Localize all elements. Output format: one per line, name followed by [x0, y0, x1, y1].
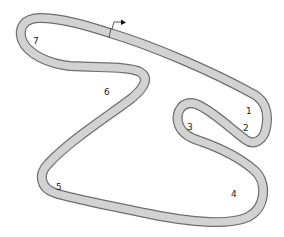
- turn-label-5: 5: [56, 182, 62, 192]
- start-flag-pole: [112, 22, 121, 29]
- turn-label-3: 3: [187, 122, 193, 132]
- turn-label-1: 1: [246, 106, 252, 116]
- turn-label-4: 4: [231, 189, 237, 199]
- turn-label-6: 6: [104, 87, 110, 97]
- start-flag-arrow-icon: [121, 20, 126, 26]
- circuit-diagram: 1 2 3 4 5 6 7: [0, 0, 284, 237]
- turn-label-7: 7: [33, 36, 39, 46]
- turn-label-2: 2: [243, 123, 249, 133]
